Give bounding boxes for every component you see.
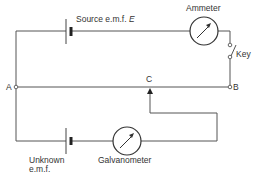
resistance-wire-ab — [14, 85, 232, 89]
jockey-arrow-icon[interactable] — [147, 88, 217, 141]
point-a-label: A — [6, 82, 12, 92]
point-b-label: B — [233, 82, 239, 92]
ammeter-icon — [190, 17, 218, 45]
point-c-label: C — [146, 74, 152, 84]
unknown-cell-icon — [66, 128, 71, 154]
galvanometer-label: Galvanometer — [98, 155, 152, 165]
ammeter-label: Ammeter — [186, 3, 221, 13]
galvanometer-icon — [113, 127, 141, 155]
circuit-diagram: Source e.m.f. E Ammeter Key A B C — [0, 0, 261, 182]
key-label: Key — [236, 49, 251, 59]
key-switch-icon[interactable] — [228, 43, 236, 59]
source-cell-icon — [66, 19, 71, 44]
unknown-emf-label-line2: e.m.f. — [29, 164, 50, 174]
source-emf-label: Source e.m.f. E — [76, 14, 135, 24]
